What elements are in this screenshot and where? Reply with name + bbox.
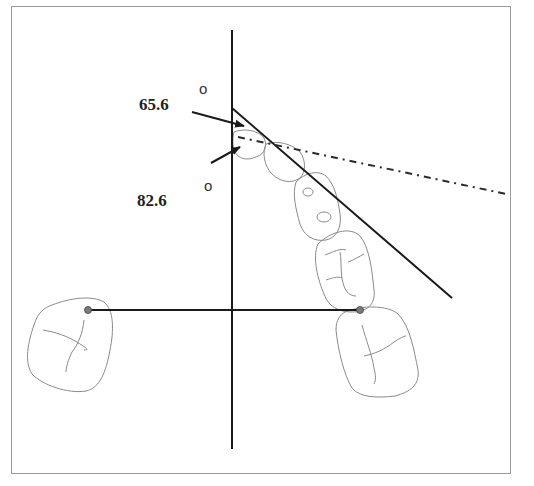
lateral-incisor bbox=[264, 142, 305, 181]
right-landmark-dot bbox=[357, 307, 364, 314]
premolar-2 bbox=[316, 231, 375, 312]
left-landmark-dot bbox=[85, 307, 92, 314]
angle-lower-value: 82.6 bbox=[137, 191, 167, 211]
left-molar bbox=[28, 298, 113, 392]
arrow-upper bbox=[192, 112, 244, 126]
angle-upper-degree: o bbox=[199, 80, 207, 97]
angle-lower-degree: o bbox=[204, 177, 212, 194]
diagram-canvas bbox=[0, 0, 534, 486]
dental-diagram: 65.6 o 82.6 o bbox=[0, 0, 534, 486]
arrow-lower bbox=[211, 147, 240, 163]
dash-dot-reference-line bbox=[238, 137, 506, 194]
central-incisor bbox=[233, 130, 266, 159]
teeth-outlines bbox=[28, 130, 419, 397]
angle-upper-value: 65.6 bbox=[139, 95, 169, 115]
tangent-line bbox=[232, 108, 452, 298]
